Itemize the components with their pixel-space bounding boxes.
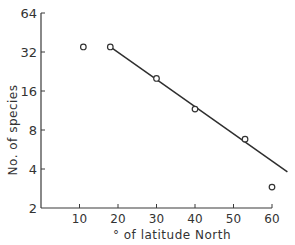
y-tick-label: 16 (20, 84, 37, 99)
x-axis-label: ° of latitude North (113, 228, 231, 242)
y-tick-label: 8 (29, 123, 37, 138)
data-point (154, 76, 160, 82)
data-point (81, 44, 87, 50)
y-axis-label: No. of species (6, 85, 20, 176)
x-tick-label: 30 (149, 212, 164, 226)
x-tick-label: 20 (110, 212, 125, 226)
y-axis: 248163264 (20, 6, 45, 216)
data-point (269, 184, 275, 190)
y-tick-label: 4 (29, 162, 37, 177)
y-tick-label: 2 (29, 201, 37, 216)
data-point (108, 44, 114, 50)
x-tick-label: 60 (264, 212, 279, 226)
data-point (242, 136, 248, 142)
x-tick-label: 50 (226, 212, 241, 226)
data-points (81, 44, 275, 190)
species-latitude-chart: 248163264 102030405060 No. of species ° … (0, 0, 295, 245)
y-tick-label: 64 (20, 6, 37, 21)
data-point (192, 106, 198, 112)
x-tick-label: 40 (187, 212, 202, 226)
fit-line (110, 47, 287, 172)
x-tick-label: 10 (72, 212, 87, 226)
y-tick-label: 32 (20, 45, 37, 60)
x-axis: 102030405060 (41, 204, 280, 226)
